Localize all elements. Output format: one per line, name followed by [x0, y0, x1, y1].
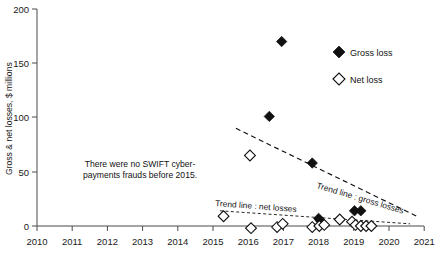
note-line-1: There were no SWIFT cyber-: [85, 159, 196, 169]
x-tick-label: 2019: [343, 236, 364, 247]
x-tick-label: 2011: [62, 236, 82, 247]
legend-marker-gross-loss: [333, 46, 345, 58]
legend-marker-net-loss: [333, 73, 345, 85]
net-loss-point: [334, 214, 345, 225]
gross-loss-point: [264, 111, 274, 121]
net-loss-point: [245, 150, 256, 161]
y-tick-label: 200: [13, 4, 29, 15]
gross-loss-point: [356, 206, 366, 216]
y-tick-label: 100: [13, 112, 29, 123]
note-line-2: payments frauds before 2015.: [83, 170, 197, 180]
x-tick-label: 2017: [273, 236, 294, 247]
y-tick-label: 150: [13, 58, 29, 69]
chart-container: Gross & net losses, $ millions 200 150 1…: [0, 0, 448, 253]
net-loss-point: [246, 223, 257, 234]
x-tick-label: 2013: [132, 236, 153, 247]
x-tick-label: 2016: [238, 236, 259, 247]
x-tick-label: 2021: [414, 236, 435, 247]
gross-loss-point: [276, 36, 286, 46]
no-frauds-note: There were no SWIFT cyber- payments frau…: [83, 159, 197, 180]
chart-legend: Gross loss Net loss: [333, 46, 393, 85]
legend-label-net-loss: Net loss: [350, 75, 383, 85]
y-axis-ticks: [32, 9, 37, 226]
scatter-chart: Gross & net losses, $ millions 200 150 1…: [0, 0, 448, 253]
x-axis-tick-labels: 2010 2011 2012 2013 2014 2015 2016 2017 …: [26, 236, 434, 247]
x-tick-label: 2014: [167, 236, 188, 247]
y-tick-label: 0: [24, 221, 29, 232]
y-tick-label: 50: [18, 167, 29, 178]
x-tick-label: 2010: [26, 236, 47, 247]
x-tick-label: 2018: [308, 236, 329, 247]
net-loss-point: [218, 211, 229, 222]
x-tick-label: 2020: [378, 236, 399, 247]
y-axis-tick-labels: 200 150 100 50 0: [13, 4, 29, 232]
x-tick-label: 2015: [202, 236, 223, 247]
legend-label-gross-loss: Gross loss: [350, 48, 393, 58]
x-tick-label: 2012: [97, 236, 118, 247]
